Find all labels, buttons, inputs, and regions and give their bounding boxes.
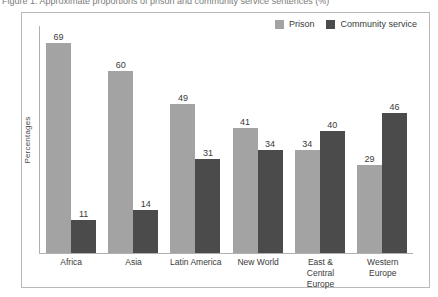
x-axis-category-label: East &CentralEurope [289,257,351,290]
bar-prison[interactable] [295,150,320,253]
bar-community-service[interactable] [320,131,345,253]
y-axis-title: Percentages [23,105,32,175]
bar-prison[interactable] [170,104,195,253]
bar-value-label: 31 [195,148,220,158]
bar-column[interactable]: 11 [71,26,96,253]
bar-value-label: 11 [71,209,96,219]
bar-pair: 6911 [40,26,102,253]
bar-column[interactable]: 60 [108,26,133,253]
bar-groups: 691160144931413434402946 [40,26,413,253]
bar-column[interactable]: 49 [170,26,195,253]
bar-prison[interactable] [357,165,382,253]
bar-value-label: 34 [258,139,283,149]
bar-column[interactable]: 41 [233,26,258,253]
bar-group: 4931 [164,26,226,253]
bar-column[interactable]: 34 [295,26,320,253]
bar-column[interactable]: 31 [195,26,220,253]
bar-value-label: 40 [320,120,345,130]
plot-area: 691160144931413434402946 [39,26,413,254]
x-axis-category-label: WesternEurope [352,257,414,290]
bar-value-label: 41 [233,117,258,127]
bar-group: 6911 [40,26,102,253]
bar-prison[interactable] [46,43,71,253]
x-axis-category-label: Asia [102,257,164,290]
bar-column[interactable]: 29 [357,26,382,253]
bar-pair: 6014 [102,26,164,253]
x-axis-line [39,253,413,254]
bar-column[interactable]: 46 [382,26,407,253]
figure-frame: Prison Community service Percentages 691… [21,12,430,288]
bar-column[interactable]: 14 [133,26,158,253]
bar-value-label: 60 [108,60,133,70]
bar-column[interactable]: 34 [258,26,283,253]
bar-pair: 2946 [351,26,413,253]
bar-prison[interactable] [233,128,258,253]
bar-value-label: 29 [357,154,382,164]
bar-group: 2946 [351,26,413,253]
bar-value-label: 14 [133,199,158,209]
bar-value-label: 69 [46,32,71,42]
bar-group: 6014 [102,26,164,253]
x-axis-category-label: Latin America [165,257,227,290]
bar-community-service[interactable] [258,150,283,253]
x-axis-category-labels: AfricaAsiaLatin AmericaNew WorldEast &Ce… [40,257,414,290]
clipped-caption-text: Figure 1. Approximate proportions of pri… [2,0,329,6]
bar-pair: 3440 [289,26,351,253]
bar-community-service[interactable] [71,220,96,253]
bar-prison[interactable] [108,71,133,253]
bar-pair: 4931 [164,26,226,253]
bar-community-service[interactable] [195,159,220,253]
x-axis-category-label: New World [227,257,289,290]
bar-group: 4134 [227,26,289,253]
bar-pair: 4134 [227,26,289,253]
clipped-caption: Figure 1. Approximate proportions of pri… [0,0,438,7]
x-axis-category-label: Africa [40,257,102,290]
bar-column[interactable]: 40 [320,26,345,253]
bar-value-label: 46 [382,102,407,112]
bar-community-service[interactable] [382,113,407,253]
bar-group: 3440 [289,26,351,253]
bar-value-label: 49 [170,93,195,103]
bar-community-service[interactable] [133,210,158,253]
bar-column[interactable]: 69 [46,26,71,253]
bar-value-label: 34 [295,139,320,149]
